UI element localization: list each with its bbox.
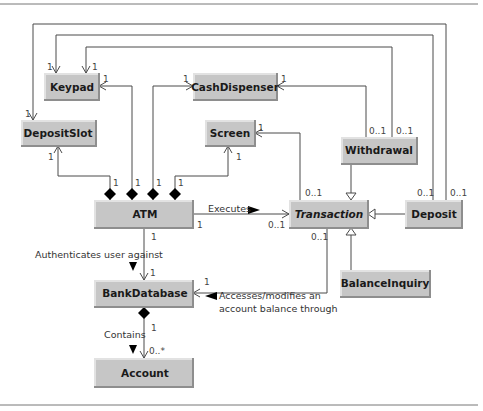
multiplicity: 0..1 (268, 220, 285, 230)
class-deposit[interactable]: Deposit (405, 200, 463, 229)
accesses-label-line2: account balance through (219, 303, 338, 314)
class-name: Account (121, 367, 169, 379)
multiplicity: 0..* (149, 346, 165, 356)
class-name: ATM (133, 208, 158, 220)
multiplicity: 1 (204, 277, 210, 287)
multiplicity: 0..1 (369, 126, 386, 136)
class-name: Keypad (50, 81, 94, 93)
multiplicity: 0..1 (417, 188, 434, 198)
class-depositslot[interactable]: DepositSlot (21, 120, 97, 147)
multiplicity: 1 (92, 62, 98, 72)
multiplicity: 1 (281, 74, 287, 84)
composition-diamond-icon (147, 188, 159, 200)
accesses-label-line1: Accesses/modifies an (219, 290, 321, 301)
composition-diamond-icon (104, 188, 116, 200)
multiplicity: 1 (150, 268, 156, 278)
class-keypad[interactable]: Keypad (44, 73, 100, 101)
multiplicity: 1 (183, 74, 189, 84)
multiplicity: 0..1 (305, 188, 322, 198)
class-name: BalanceInquiry (341, 277, 430, 289)
class-name: CashDispenser (191, 81, 280, 93)
class-screen[interactable]: Screen (205, 120, 256, 147)
multiplicity: 1 (47, 62, 53, 72)
multiplicity: 1 (151, 232, 157, 242)
multiplicity: 0..1 (396, 126, 413, 136)
multiplicity: 1 (156, 178, 162, 188)
deposit-to-keypad-line (56, 35, 433, 200)
generalization-arrow-icon (346, 228, 356, 235)
multiplicity: 1 (258, 123, 264, 133)
withdrawal-to-cashdispenser-line (277, 86, 366, 137)
multiplicity: 0..1 (450, 188, 467, 198)
multiplicity: 1 (197, 220, 203, 230)
class-bankdatabase[interactable]: BankDatabase (94, 280, 194, 308)
class-cashdispenser[interactable]: CashDispenser (191, 73, 280, 101)
direction-down-icon (129, 345, 137, 354)
multiplicity: 1 (25, 109, 31, 119)
class-atm[interactable]: ATM (94, 200, 194, 229)
class-balanceinquiry[interactable]: BalanceInquiry (340, 270, 431, 298)
multiplicity: 1 (135, 178, 141, 188)
multiplicity: 1 (113, 178, 119, 188)
executes-label: Executes (208, 203, 251, 214)
direction-down-icon (129, 262, 137, 271)
class-account[interactable]: Account (94, 358, 194, 388)
atm-to-screen-line (175, 146, 228, 200)
contains-label: Contains (104, 329, 146, 340)
composition-diamond-icon (138, 307, 150, 319)
multiplicity: 1 (236, 152, 242, 162)
multiplicity: 1 (151, 323, 157, 333)
class-name: Transaction (295, 208, 364, 220)
multiplicity: 1 (48, 152, 54, 162)
transaction-to-screen-line (255, 133, 300, 200)
multiplicity: 1 (103, 74, 109, 84)
multiplicity: 0..1 (311, 232, 328, 242)
transaction-to-bankdatabase-line (193, 228, 327, 293)
class-transaction[interactable]: Transaction (289, 200, 369, 229)
class-name: Withdrawal (345, 144, 413, 156)
uml-class-diagram: Keypad CashDispenser DepositSlot Screen … (0, 0, 483, 411)
atm-to-depositslot-line (58, 146, 110, 200)
class-name: DepositSlot (24, 127, 93, 139)
class-name: Screen (210, 127, 251, 139)
class-withdrawal[interactable]: Withdrawal (341, 137, 418, 165)
generalization-arrow-icon (368, 209, 375, 219)
composition-diamond-icon (126, 188, 138, 200)
authenticates-label: Authenticates user against (35, 249, 163, 260)
deposit-to-depositslot-line (33, 24, 446, 200)
class-name: BankDatabase (102, 287, 187, 299)
class-name: Deposit (411, 208, 456, 220)
multiplicity: 1 (178, 178, 184, 188)
generalization-arrow-icon (346, 193, 356, 200)
composition-diamond-icon (169, 188, 181, 200)
